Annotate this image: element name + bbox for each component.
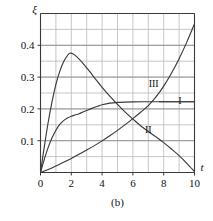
x-tick-label: 8 (161, 177, 167, 189)
y-tick-label: 0.2 (21, 103, 35, 115)
y-axis-label: ξ (32, 3, 37, 16)
figure-caption: (b) (111, 196, 124, 209)
y-tick-label: 0.3 (21, 71, 35, 83)
curve-label-ii: II (145, 124, 152, 135)
figure-container: IIIIII 02468100.10.20.30.4ξt(b) (0, 0, 213, 221)
x-tick-label: 10 (189, 177, 201, 189)
x-axis-label: t (201, 161, 205, 173)
y-tick-label: 0.1 (21, 135, 35, 147)
curve-label-i: I (178, 95, 181, 106)
x-tick-label: 2 (69, 177, 75, 189)
axis-ticks (38, 45, 195, 175)
chart-canvas: IIIIII 02468100.10.20.30.4ξt(b) (0, 0, 213, 221)
y-tick-label: 0.4 (21, 39, 35, 51)
curve-label-iii: III (149, 78, 159, 89)
x-tick-label: 6 (130, 177, 136, 189)
x-tick-label: 4 (99, 177, 105, 189)
x-tick-label: 0 (38, 177, 44, 189)
tick-labels: 02468100.10.20.30.4ξt(b) (21, 3, 205, 210)
